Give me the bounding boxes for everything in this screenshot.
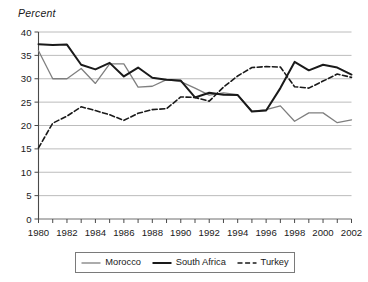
series-line-south-africa	[39, 44, 352, 111]
legend-item-turkey[interactable]: Turkey	[237, 258, 289, 268]
legend-label: South Africa	[176, 258, 226, 267]
x-tick-label: 1980	[28, 227, 49, 238]
x-tick-label: 1984	[85, 227, 107, 238]
legend-label: Morocco	[105, 258, 141, 267]
y-tick-label: 40	[21, 27, 32, 38]
y-tick-label: 5	[26, 190, 31, 201]
x-tick-label: 1994	[227, 227, 249, 238]
legend-label: Turkey	[261, 258, 289, 267]
legend-swatch-icon	[81, 258, 101, 268]
x-tick-label: 1988	[142, 227, 163, 238]
legend-item-south-africa[interactable]: South Africa	[152, 258, 226, 268]
x-tick-label: 2002	[341, 227, 362, 238]
x-tick-label: 1990	[170, 227, 191, 238]
legend-swatch-icon	[237, 258, 257, 268]
x-tick-label: 1982	[56, 227, 77, 238]
line-chart: Percent 0510152025303540 198019821984198…	[0, 0, 368, 282]
series-line-morocco	[39, 51, 352, 123]
series-lines	[39, 44, 352, 148]
y-tick-label: 10	[21, 167, 32, 178]
gridlines	[39, 32, 352, 219]
y-tick-label: 15	[21, 143, 32, 154]
y-tick-label: 20	[21, 120, 32, 131]
y-tick-label: 25	[21, 97, 32, 108]
legend-swatch-icon	[152, 258, 172, 268]
legend-item-morocco[interactable]: Morocco	[81, 258, 141, 268]
y-tick-label: 35	[21, 50, 32, 61]
y-tick-label: 0	[26, 214, 31, 225]
chart-legend: MoroccoSouth AfricaTurkey	[75, 252, 295, 273]
x-tick-label: 2000	[312, 227, 333, 238]
x-axis: 1980198219841986198819901992199419961998…	[28, 219, 362, 238]
x-tick-label: 1992	[199, 227, 220, 238]
x-tick-label: 1996	[255, 227, 276, 238]
x-tick-label: 1998	[284, 227, 305, 238]
y-axis: 0510152025303540	[21, 27, 39, 225]
y-tick-label: 30	[21, 73, 32, 84]
chart-plot-area: 0510152025303540 19801982198419861988199…	[0, 0, 368, 282]
x-tick-label: 1986	[113, 227, 134, 238]
